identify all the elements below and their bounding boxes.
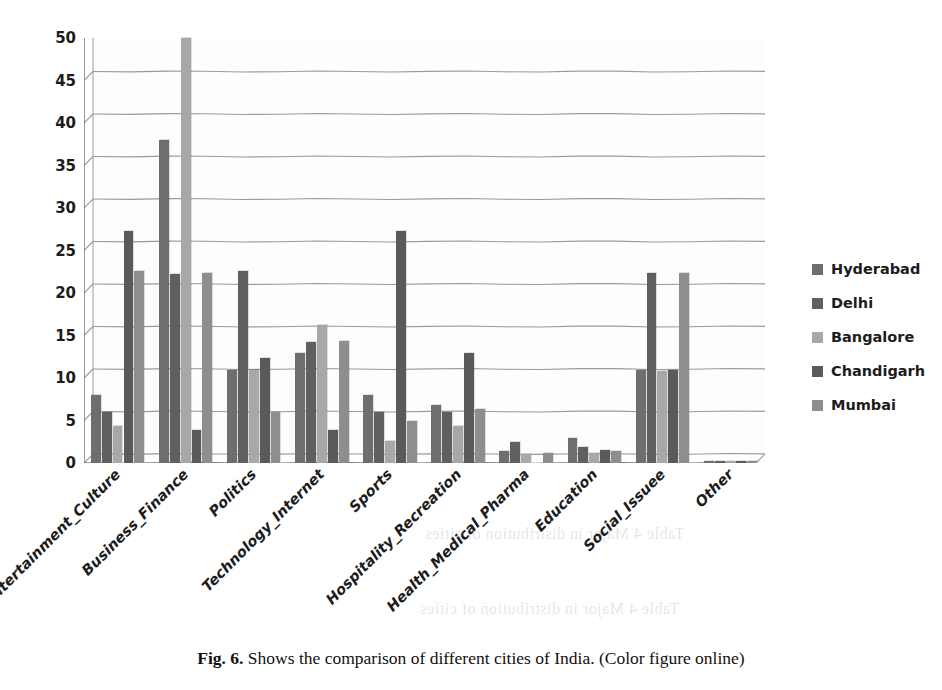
- bar: [249, 370, 259, 464]
- legend-swatch-icon: [812, 366, 823, 377]
- bar: [600, 450, 610, 463]
- y-tick-label: 45: [36, 72, 76, 90]
- y-tick-label: 20: [36, 284, 76, 302]
- bar: [668, 370, 678, 464]
- legend-swatch-icon: [812, 400, 823, 411]
- bar: [113, 426, 123, 463]
- x-tick-label: Other: [692, 466, 736, 510]
- x-axis-tick-labels: Entertainment_CultureBusiness_FinancePol…: [0, 466, 790, 626]
- legend-item-mumbai: Mumbai: [812, 388, 942, 422]
- bar: [568, 438, 578, 463]
- bar: [453, 426, 463, 463]
- bar: [736, 461, 746, 463]
- bar: [124, 231, 134, 463]
- bar: [260, 358, 270, 463]
- y-tick-label: 5: [36, 412, 76, 430]
- bar: [385, 441, 395, 463]
- bar: [499, 451, 509, 463]
- chart-legend: HyderabadDelhiBangaloreChandigarhMumbai: [812, 252, 942, 422]
- x-tick-label: Sports: [347, 466, 396, 515]
- bar: [170, 274, 180, 463]
- legend-swatch-icon: [812, 332, 823, 343]
- bar: [328, 430, 338, 463]
- bar: [647, 273, 657, 463]
- bar: [295, 353, 305, 463]
- bar: [181, 38, 191, 463]
- y-tick-label: 40: [36, 114, 76, 132]
- bars-layer: [84, 38, 765, 463]
- legend-item-hyderabad: Hyderabad: [812, 252, 942, 286]
- legend-label: Bangalore: [831, 329, 914, 345]
- bar: [159, 140, 169, 463]
- x-tick-label: Hospitality_Recreation: [322, 466, 464, 608]
- legend-label: Mumbai: [831, 397, 896, 413]
- bar: [475, 409, 485, 463]
- figure-caption-text: Shows the comparison of different cities…: [248, 648, 745, 668]
- bar: [726, 461, 736, 463]
- bar: [589, 453, 599, 463]
- legend-label: Delhi: [831, 295, 873, 311]
- bar: [192, 430, 202, 463]
- figure-container: Hyderabad Table 4 Major in distribution …: [0, 0, 942, 690]
- bar: [747, 461, 757, 463]
- legend-label: Hyderabad: [831, 261, 920, 277]
- bar: [102, 412, 112, 463]
- x-tick-label: Entertainment_Culture: [0, 466, 123, 609]
- bar: [715, 461, 725, 463]
- bar: [227, 370, 237, 464]
- legend-item-chandigarh: Chandigarh: [812, 354, 942, 388]
- bar: [442, 412, 452, 463]
- bar: [636, 370, 646, 464]
- bar: [202, 273, 212, 463]
- bar: [611, 451, 621, 463]
- plot-area: [84, 38, 765, 463]
- bar: [521, 454, 531, 463]
- bar: [657, 371, 667, 463]
- bar: [396, 231, 406, 463]
- figure-caption-label: Fig. 6.: [197, 648, 243, 668]
- y-axis-tick-labels: 05101520253035404550: [28, 38, 76, 463]
- x-tick-label: Politics: [206, 466, 260, 520]
- bar: [510, 442, 520, 463]
- bar: [374, 412, 384, 463]
- x-tick-label: Technology_Internet: [199, 466, 328, 595]
- bar: [431, 405, 441, 463]
- legend-label: Chandigarh: [831, 363, 925, 379]
- bar: [464, 353, 474, 463]
- bar: [679, 273, 689, 463]
- y-tick-label: 30: [36, 199, 76, 217]
- bar: [134, 271, 144, 463]
- y-tick-label: 35: [36, 157, 76, 175]
- y-tick-label: 25: [36, 242, 76, 260]
- bar: [543, 453, 553, 463]
- legend-swatch-icon: [812, 264, 823, 275]
- legend-swatch-icon: [812, 298, 823, 309]
- y-tick-label: 15: [36, 327, 76, 345]
- bar: [271, 412, 281, 463]
- bar: [704, 461, 714, 463]
- bar: [238, 271, 248, 463]
- legend-item-delhi: Delhi: [812, 286, 942, 320]
- x-tick-label: Education: [531, 466, 600, 535]
- bar: [578, 447, 588, 463]
- bar: [407, 421, 417, 464]
- bar: [363, 395, 373, 463]
- bar: [317, 325, 327, 463]
- legend-item-bangalore: Bangalore: [812, 320, 942, 354]
- figure-caption: Fig. 6. Shows the comparison of differen…: [0, 648, 942, 669]
- bar: [91, 395, 101, 463]
- y-tick-label: 50: [36, 29, 76, 47]
- bar: [306, 342, 316, 463]
- bar: [339, 341, 349, 463]
- x-tick-label: Health_Medical_Pharma: [383, 466, 532, 615]
- y-tick-label: 10: [36, 369, 76, 387]
